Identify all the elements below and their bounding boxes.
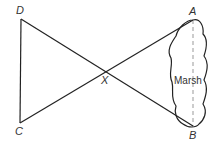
marsh-region bbox=[169, 20, 207, 127]
label-x: X bbox=[100, 74, 109, 86]
segment-dc bbox=[20, 19, 21, 123]
geometry-diagram: D C X A B Marsh bbox=[0, 0, 224, 147]
label-c: C bbox=[15, 125, 23, 137]
label-marsh: Marsh bbox=[174, 75, 202, 86]
segment-cb bbox=[20, 20, 193, 123]
label-b: B bbox=[189, 129, 196, 141]
label-a: A bbox=[188, 5, 196, 17]
label-d: D bbox=[16, 4, 24, 16]
